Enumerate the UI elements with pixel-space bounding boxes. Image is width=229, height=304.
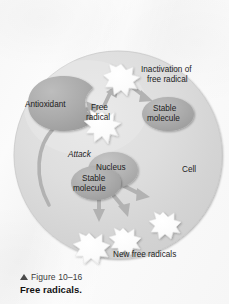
caption-number: Figure 10–16 bbox=[31, 272, 82, 282]
label-stable-molecule-top-line1: Stable bbox=[153, 104, 177, 113]
label-free-radical-line1: Free bbox=[91, 103, 108, 112]
label-stable-molecule-top-line2: molecule bbox=[147, 114, 180, 123]
caption-number-line: Figure 10–16 bbox=[20, 272, 220, 283]
caption-title: Free radicals. bbox=[20, 284, 220, 296]
label-nucleus: Nucleus bbox=[96, 163, 126, 172]
label-stable-molecule-center-line2: molecule bbox=[73, 184, 106, 193]
label-cell: Cell bbox=[182, 165, 196, 174]
free-radical-diagram: Inactivation of free radical Antioxidant… bbox=[0, 0, 229, 268]
figure-root: Inactivation of free radical Antioxidant… bbox=[0, 0, 229, 304]
label-free-radical-line2: radical bbox=[86, 113, 110, 122]
label-new-free-radicals: New free radicals bbox=[113, 250, 176, 259]
label-antioxidant: Antioxidant bbox=[25, 100, 66, 109]
label-attack: Attack bbox=[67, 150, 92, 159]
label-inactivation-line2: free radical bbox=[147, 75, 188, 84]
label-inactivation-line1: Inactivation of bbox=[141, 65, 192, 74]
figure-caption: Figure 10–16 Free radicals. bbox=[20, 272, 220, 296]
label-stable-molecule-center-line1: Stable bbox=[82, 174, 106, 183]
up-triangle-icon bbox=[20, 274, 28, 280]
